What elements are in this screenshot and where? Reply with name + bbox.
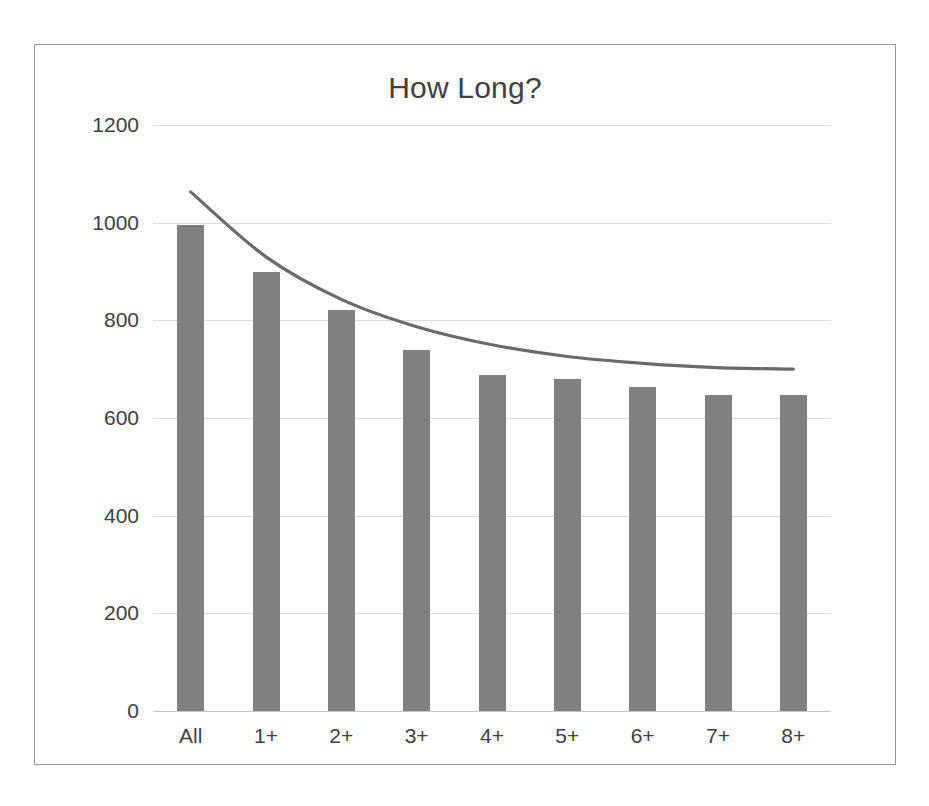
x-tick-label: All <box>179 724 202 748</box>
x-tick-label: 4+ <box>480 724 504 748</box>
axis-line-zero <box>153 711 831 712</box>
x-tick-label: 6+ <box>631 724 655 748</box>
bar <box>705 395 732 711</box>
bar <box>403 350 430 711</box>
trendline-path <box>191 192 794 369</box>
chart-title: How Long? <box>35 71 895 105</box>
gridline <box>153 223 831 224</box>
y-tick-label: 0 <box>127 699 139 723</box>
y-tick-label: 1200 <box>92 113 139 137</box>
y-tick-label: 800 <box>104 308 139 332</box>
plot-area: 020040060080010001200 All1+2+3+4+5+6+7+8… <box>153 125 831 711</box>
bar <box>177 225 204 711</box>
y-tick-label: 200 <box>104 601 139 625</box>
x-tick-label: 2+ <box>329 724 353 748</box>
chart-frame: How Long? 020040060080010001200 All1+2+3… <box>34 44 896 765</box>
bar <box>253 272 280 712</box>
bar <box>780 395 807 711</box>
gridline <box>153 125 831 126</box>
bar <box>629 387 656 711</box>
bar <box>554 379 581 711</box>
x-tick-label: 1+ <box>254 724 278 748</box>
y-tick-label: 600 <box>104 406 139 430</box>
y-tick-label: 400 <box>104 504 139 528</box>
bar <box>479 375 506 711</box>
x-tick-label: 3+ <box>405 724 429 748</box>
x-tick-label: 7+ <box>706 724 730 748</box>
x-tick-label: 5+ <box>555 724 579 748</box>
bar <box>328 310 355 711</box>
x-tick-label: 8+ <box>781 724 805 748</box>
y-tick-label: 1000 <box>92 211 139 235</box>
